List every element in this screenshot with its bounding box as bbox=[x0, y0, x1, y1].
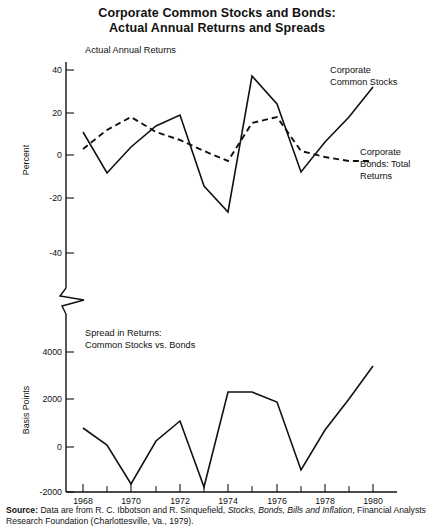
annotation-stocks-line2: Common Stocks bbox=[330, 77, 398, 87]
top-yticklabel-3: -20 bbox=[49, 193, 62, 203]
bottom-yticklabel-1: 2000 bbox=[42, 394, 62, 404]
top-panel-label: Actual Annual Returns bbox=[85, 45, 176, 55]
annotation-bonds-line2: Bonds: Total bbox=[360, 159, 410, 169]
source-italic-title: Stocks, Bonds, Bills and Inflation bbox=[228, 505, 353, 515]
bottom-yticklabel-0: 4000 bbox=[42, 347, 62, 357]
top-yticklabel-0: 40 bbox=[52, 65, 62, 75]
annotation-stocks-line1: Corporate bbox=[330, 65, 371, 75]
bottom-yticklabel-3: -2000 bbox=[40, 487, 63, 497]
source-text-part1: Data are from R. C. Ibbotson and R. Sinq… bbox=[40, 505, 227, 515]
top-yticklabel-2: 0 bbox=[57, 150, 62, 160]
bottom-yaxis-title: Basis Points bbox=[21, 385, 31, 434]
annotation-bonds-line1: Corporate bbox=[360, 147, 401, 157]
series-corporate-bonds-total-returns bbox=[83, 117, 373, 161]
chart-svg: 40 20 0 -20 -40 Percent Actual Annual Re… bbox=[0, 0, 434, 531]
source-note: Source: Data are from R. C. Ibbotson and… bbox=[6, 505, 432, 526]
series-corporate-common-stocks bbox=[83, 76, 373, 212]
bottom-panel-label-line2: Common Stocks vs. Bonds bbox=[85, 340, 196, 350]
source-label: Source: bbox=[6, 505, 38, 515]
top-yaxis-title: Percent bbox=[21, 144, 31, 175]
bottom-yticklabel-2: 0 bbox=[57, 442, 62, 452]
annotation-bonds-line3: Returns bbox=[360, 171, 393, 181]
figure-container: Corporate Common Stocks and Bonds: Actua… bbox=[0, 0, 434, 531]
bottom-panel-label-line1: Spread in Returns: bbox=[85, 328, 162, 338]
top-yticklabel-1: 20 bbox=[52, 108, 62, 118]
top-yticklabel-4: -40 bbox=[49, 248, 62, 258]
axis-break-symbol bbox=[60, 288, 84, 314]
series-spread-stocks-vs-bonds bbox=[83, 366, 373, 487]
